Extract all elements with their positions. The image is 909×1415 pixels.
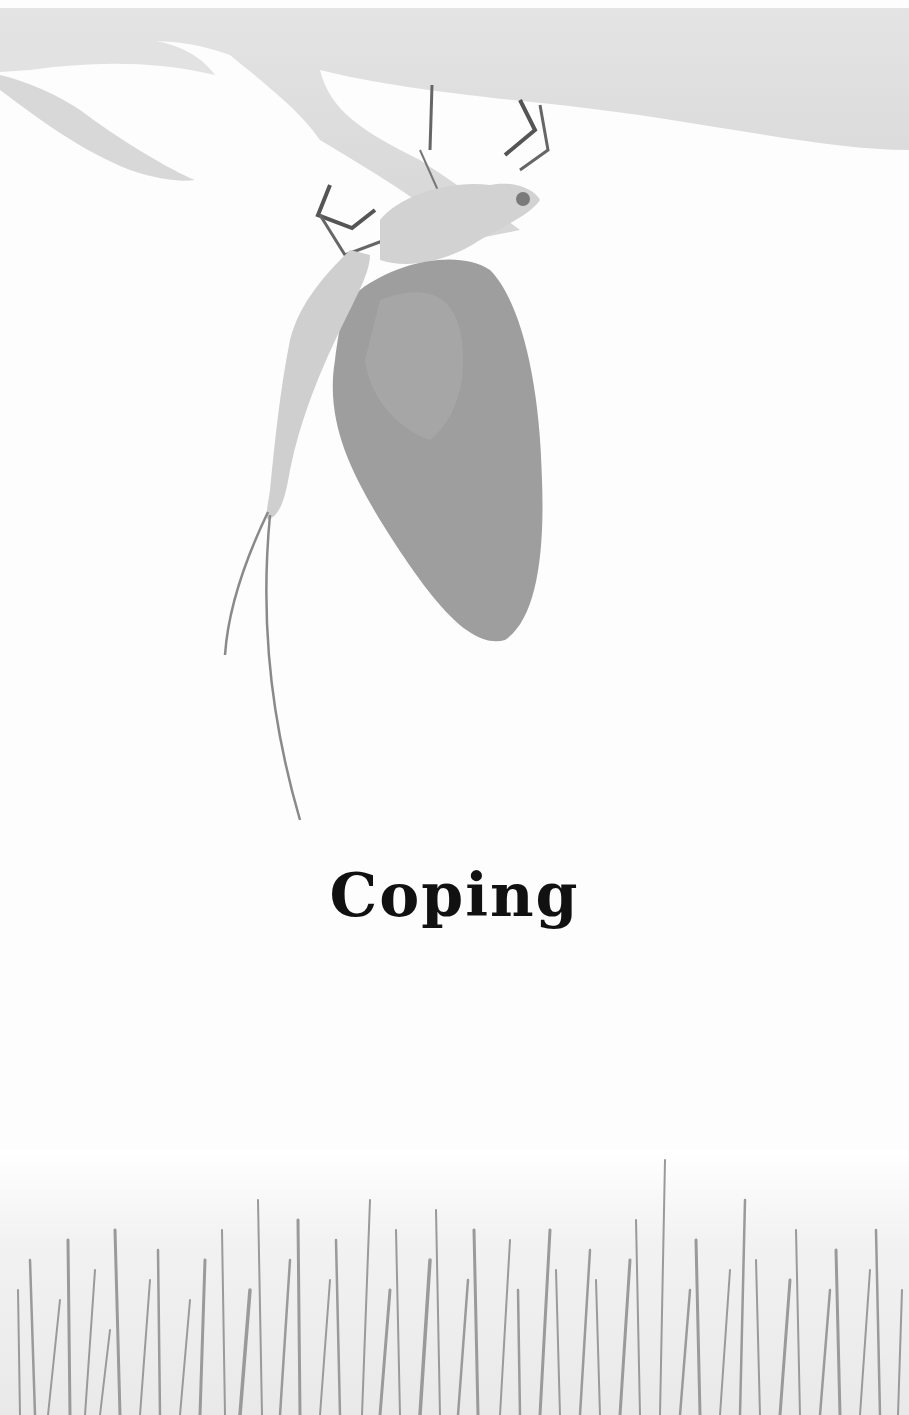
mayfly (225, 85, 548, 820)
chapter-title: Coping (0, 860, 909, 930)
chapter-title-page: Coping (0, 0, 909, 1415)
reeds (0, 1150, 909, 1415)
illustration (0, 0, 909, 1415)
